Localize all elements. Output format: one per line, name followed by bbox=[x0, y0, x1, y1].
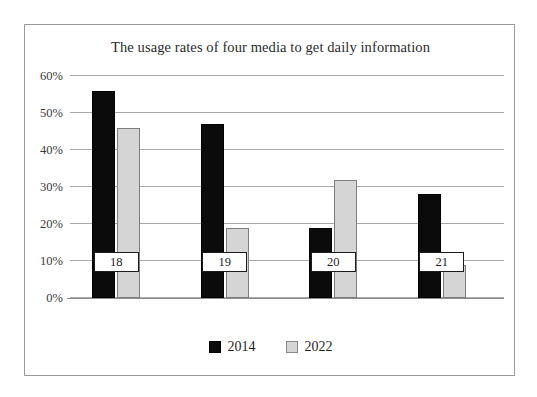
legend-item-2022: 2022 bbox=[286, 339, 333, 355]
legend-label: 2014 bbox=[228, 339, 256, 355]
y-axis-tick-label: 10% bbox=[40, 254, 63, 269]
x-axis-category-label-20: 20 bbox=[311, 252, 356, 272]
chart-legend: 20142022 bbox=[25, 339, 516, 355]
y-axis-tick-label: 30% bbox=[40, 180, 63, 195]
gray-square-swatch bbox=[286, 341, 298, 353]
chart-title: The usage rates of four media to get dai… bbox=[25, 39, 516, 56]
chart-figure-frame: The usage rates of four media to get dai… bbox=[24, 24, 515, 376]
legend-label: 2022 bbox=[305, 339, 333, 355]
black-square-swatch bbox=[209, 341, 221, 353]
bar-2014-21 bbox=[418, 194, 441, 298]
x-axis-baseline bbox=[67, 298, 504, 299]
y-axis-tick-label: 40% bbox=[40, 143, 63, 158]
bar-2022-20 bbox=[334, 180, 357, 298]
y-axis-tick-label: 0% bbox=[46, 291, 63, 306]
y-axis-tick-label: 20% bbox=[40, 217, 63, 232]
y-axis-tick-label: 60% bbox=[40, 69, 63, 84]
x-axis-category-label-21: 21 bbox=[419, 252, 464, 272]
bar-2022-18 bbox=[117, 128, 140, 298]
x-axis-category-label-19: 19 bbox=[202, 252, 247, 272]
y-axis-tick-label: 50% bbox=[40, 106, 63, 121]
x-axis-category-label-18: 18 bbox=[94, 252, 139, 272]
legend-item-2014: 2014 bbox=[209, 339, 256, 355]
